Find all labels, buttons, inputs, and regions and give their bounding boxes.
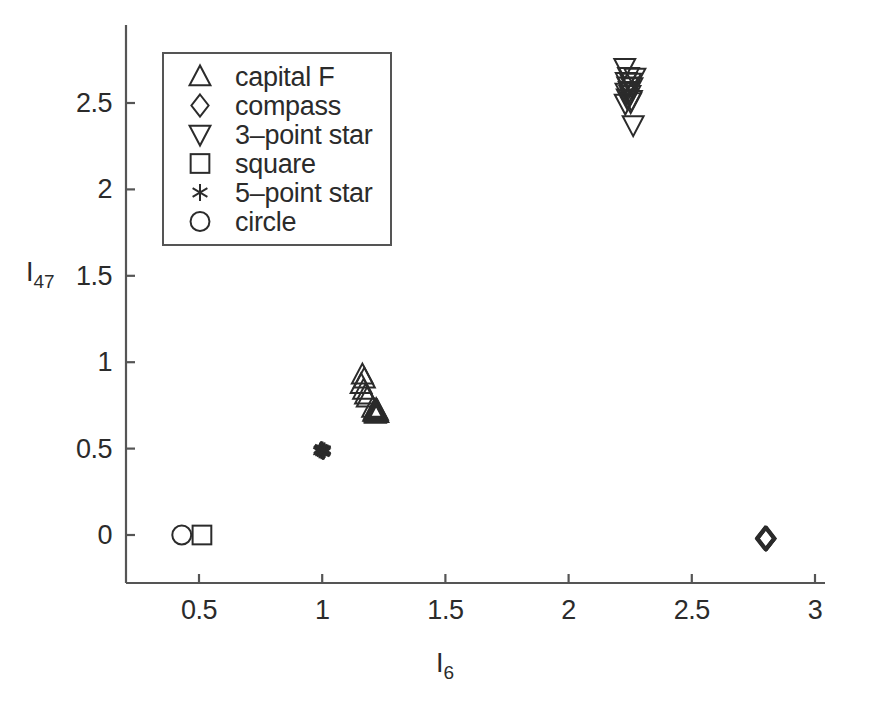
y-tick-label: 1: [97, 347, 112, 378]
y-axis-title-subscript: 47: [34, 271, 55, 292]
y-tick-label: 1.5: [76, 260, 112, 291]
x-axis-title: I6: [436, 648, 454, 679]
x-tick-label: 2.5: [674, 595, 710, 626]
data-point: [193, 526, 212, 545]
series-3-point-star: [614, 59, 645, 136]
legend-item-label: compass: [235, 90, 341, 121]
y-tick-label: 0: [97, 520, 112, 551]
x-tick-label: 1: [315, 595, 330, 626]
y-axis-title: I47: [26, 257, 55, 288]
x-tick-label: 0.5: [181, 595, 217, 626]
y-tick-label: 2.5: [76, 88, 112, 119]
series-compass: [756, 527, 776, 551]
legend-item-label: 5–point star: [235, 177, 373, 208]
y-tick-label: 0.5: [76, 433, 112, 464]
y-axis-title-base: I: [26, 257, 34, 287]
series-capital-f: [351, 364, 389, 423]
data-point: [623, 116, 644, 136]
x-tick-label: 3: [808, 595, 823, 626]
series-5-point-star: [313, 441, 331, 460]
x-axis-title-subscript: 6: [443, 662, 454, 683]
legend-item-label: 3–point star: [235, 119, 373, 150]
x-axis-title-base: I: [436, 648, 444, 678]
x-tick-label: 1.5: [427, 595, 463, 626]
series-circle: [172, 526, 191, 545]
series-square: [193, 526, 212, 545]
legend-item-label: circle: [235, 206, 296, 237]
legend-item-label: capital F: [235, 61, 334, 92]
y-tick-label: 2: [97, 174, 112, 205]
x-tick-label: 2: [561, 595, 576, 626]
scatter-plot-figure: 0.511.522.53 00.511.522.5 capital Fcompa…: [0, 0, 869, 705]
legend-item-label: square: [235, 148, 316, 179]
data-point: [172, 526, 191, 545]
